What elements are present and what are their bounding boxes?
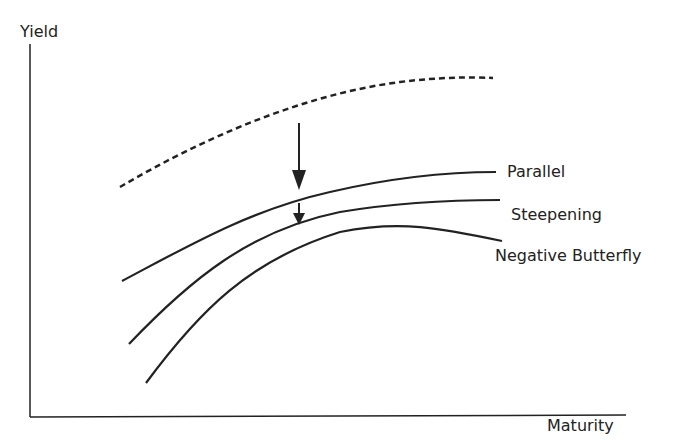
steepening-label: Steepening xyxy=(511,207,602,223)
x-axis xyxy=(30,415,626,417)
initial-curve xyxy=(120,77,493,187)
x-axis-label: Maturity xyxy=(547,418,614,434)
parallel-shift-arrow xyxy=(292,123,306,190)
y-axis-label: Yield xyxy=(20,24,58,40)
steepening-curve xyxy=(129,200,500,344)
parallel-curve xyxy=(122,172,496,281)
negative-butterfly-label: Negative Butterfly xyxy=(495,248,642,264)
negative-butterfly-curve xyxy=(146,226,502,383)
parallel-label: Parallel xyxy=(507,164,565,180)
